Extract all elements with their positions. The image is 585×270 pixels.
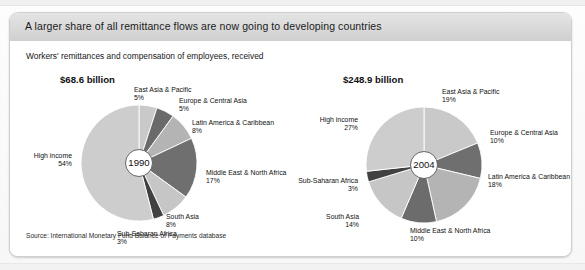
- slice-label-text: High income: [320, 116, 358, 123]
- pie-chart-2004: 2004: [10, 41, 571, 256]
- slice-label-text: South Asia: [326, 213, 359, 220]
- pie-center-year-label: 2004: [413, 159, 435, 170]
- slice-label-value: 3%: [280, 185, 358, 193]
- slice-label-2004-middle-east-north-africa: Middle East & North Africa 10%: [410, 227, 490, 244]
- slice-label-text: Middle East & North Africa: [410, 227, 490, 234]
- slice-label-2004-east-asia-pacific: East Asia & Pacific 19%: [442, 88, 499, 105]
- slice-label-value: 10%: [410, 235, 490, 243]
- slice-label-text: Europe & Central Asia: [490, 129, 558, 136]
- slice-label-value: 14%: [307, 221, 359, 229]
- slice-label-text: Sub-Saharan Africa: [298, 177, 358, 184]
- figure-title-bar: A larger share of all remittance flows a…: [10, 13, 571, 42]
- chart-body: Workers' remittances and compensation of…: [10, 41, 571, 256]
- figure-frame: A larger share of all remittance flows a…: [9, 12, 572, 257]
- page-top-edge: [0, 0, 585, 6]
- slice-label-text: Latin America & Caribbean: [488, 173, 570, 180]
- slice-label-value: 18%: [488, 181, 570, 189]
- slice-label-2004-latin-america-caribbean: Latin America & Caribbean 18%: [488, 173, 570, 190]
- page-bottom-edge: [0, 263, 585, 270]
- slice-label-2004-sub-saharan-africa: Sub-Saharan Africa 3%: [280, 177, 358, 194]
- slice-label-2004-south-asia: South Asia 14%: [307, 213, 359, 230]
- slice-label-value: 10%: [490, 137, 558, 145]
- slice-label-text: East Asia & Pacific: [442, 88, 499, 95]
- slice-label-2004-europe-central-asia: Europe & Central Asia 10%: [490, 129, 558, 146]
- slice-label-value: 19%: [442, 96, 499, 104]
- slice-label-2004-high-income: High income 27%: [302, 116, 358, 133]
- slice-label-value: 27%: [302, 124, 358, 132]
- chart-source: Source: International Monetary Fund Bala…: [26, 232, 226, 239]
- figure-page: A larger share of all remittance flows a…: [0, 0, 585, 270]
- figure-title: A larger share of all remittance flows a…: [25, 20, 382, 32]
